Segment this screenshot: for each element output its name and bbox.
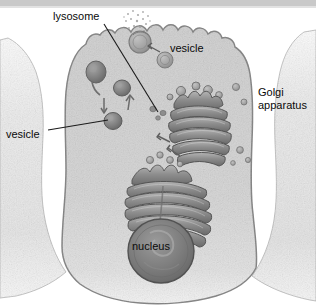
label-nucleus: nucleus	[132, 240, 170, 253]
vesicle-fusing-apical	[129, 31, 151, 53]
top-band-edge	[0, 6, 316, 8]
top-band	[0, 0, 316, 6]
cell-diagram-figure: lysosome vesicle vesicle Golgi apparatus…	[0, 0, 316, 308]
label-golgi-apparatus: Golgi apparatus	[258, 86, 314, 112]
vesicle-left-lower	[104, 113, 122, 130]
diagram-canvas	[0, 0, 316, 308]
label-vesicle-top: vesicle	[170, 42, 204, 55]
label-lysosome: lysosome	[53, 10, 99, 23]
label-golgi-line2: apparatus	[258, 99, 307, 111]
lysosome-mid	[114, 80, 131, 96]
label-golgi-line1: Golgi	[258, 86, 284, 98]
label-vesicle-left: vesicle	[6, 128, 40, 141]
